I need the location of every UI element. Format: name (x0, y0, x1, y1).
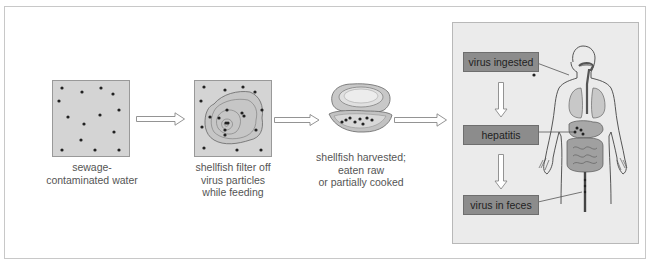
arrow-down-icon (494, 154, 508, 190)
arrow-right-icon (136, 112, 186, 126)
caption-line: virus particles (170, 174, 296, 187)
arrow-down-icon (494, 82, 508, 118)
caption-line: shellfish harvested; (296, 151, 426, 164)
oyster-filtering-icon (194, 80, 272, 157)
open-oyster-icon (326, 82, 396, 134)
contaminated-water-icon (52, 80, 130, 157)
arrow-right-icon (274, 114, 320, 126)
label-hepatitis: hepatitis (463, 125, 539, 145)
caption-line: shellfish filter off (170, 161, 296, 174)
step-harvest-caption: shellfish harvested; eaten raw or partia… (296, 151, 426, 189)
caption-line: or partially cooked (296, 176, 426, 189)
caption-line: sewage- (30, 161, 154, 174)
label-virus-ingested: virus ingested (463, 52, 539, 72)
step-filter-caption: shellfish filter off virus particles whi… (170, 161, 296, 199)
label-virus-in-feces: virus in feces (463, 195, 539, 215)
caption-line: eaten raw (296, 164, 426, 177)
arrow-right-icon (394, 113, 448, 127)
step-water-caption: sewage- contaminated water (30, 161, 154, 186)
caption-line: contaminated water (30, 174, 154, 187)
caption-line: while feeding (170, 186, 296, 199)
